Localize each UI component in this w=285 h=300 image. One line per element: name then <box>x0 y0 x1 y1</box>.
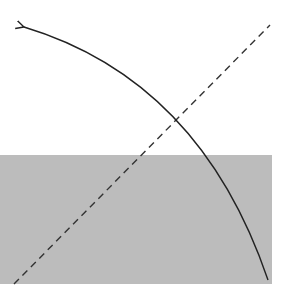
diagram-canvas <box>0 0 285 300</box>
diagram-svg <box>0 0 285 300</box>
shaded-region <box>0 155 272 284</box>
